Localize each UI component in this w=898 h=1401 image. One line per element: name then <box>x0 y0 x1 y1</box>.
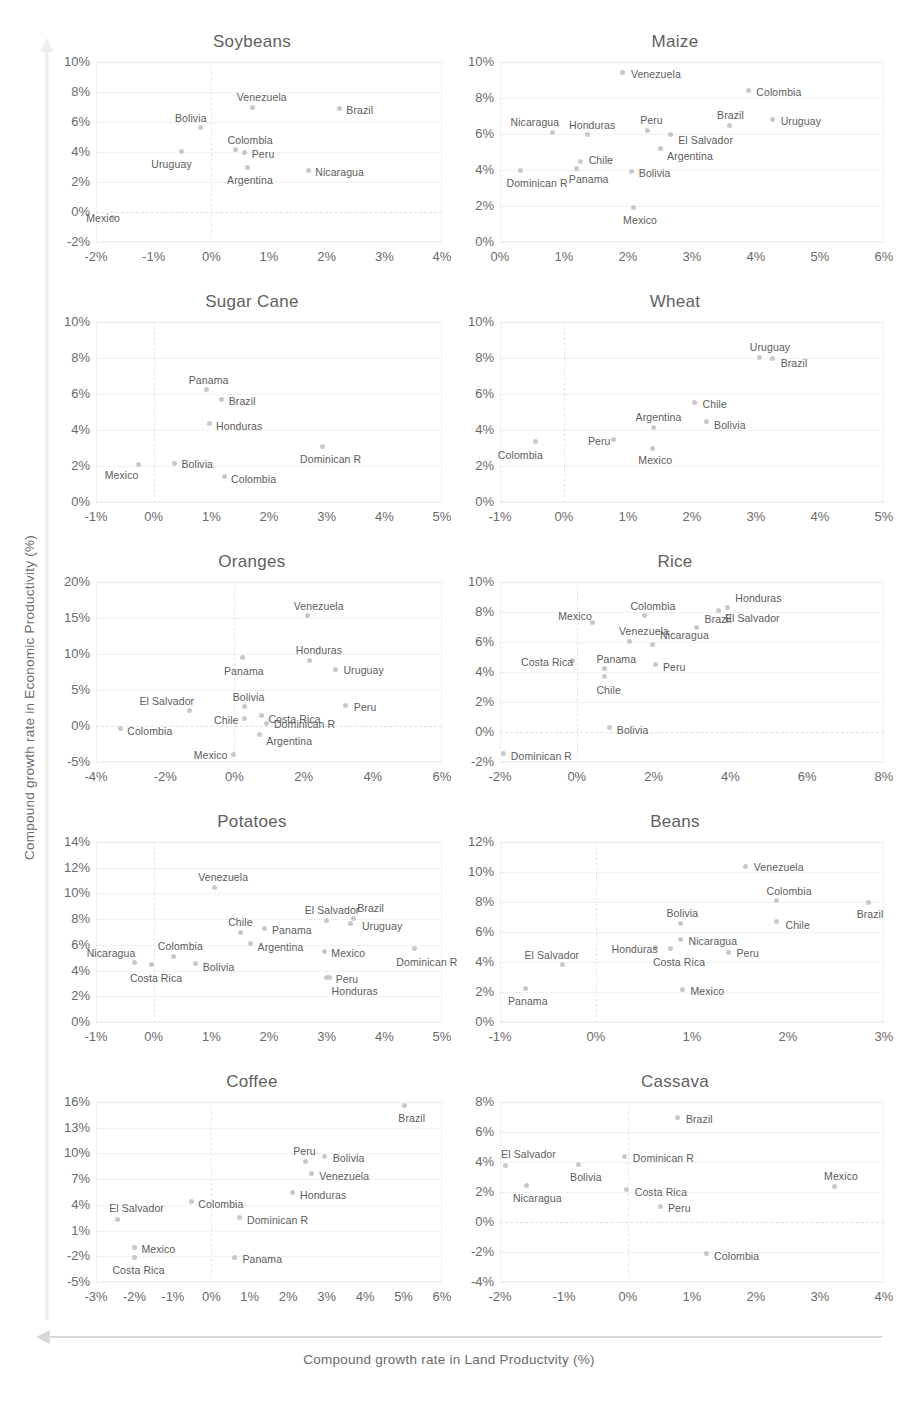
data-point[interactable] <box>627 639 632 644</box>
data-point[interactable] <box>832 1184 837 1189</box>
data-point[interactable] <box>651 425 656 430</box>
data-point[interactable] <box>172 461 177 466</box>
data-point[interactable] <box>725 605 730 610</box>
data-point[interactable] <box>245 165 250 170</box>
data-point[interactable] <box>704 1251 709 1256</box>
data-point[interactable] <box>231 752 236 757</box>
plot-area: 16%13%10%7%4%1%-2%-5%-3%-2%-1%0%1%2%3%4%… <box>96 1102 442 1282</box>
gridline-horizontal <box>96 690 442 691</box>
data-point[interactable] <box>631 205 636 210</box>
x-tick-label: 3% <box>303 510 351 523</box>
data-point[interactable] <box>257 732 262 737</box>
x-tick-label: 4% <box>732 250 780 263</box>
data-point[interactable] <box>242 716 247 721</box>
data-point[interactable] <box>658 146 663 151</box>
data-point[interactable] <box>132 960 137 965</box>
y-tick-label: 8% <box>71 351 90 364</box>
data-point[interactable] <box>402 1103 407 1108</box>
data-point[interactable] <box>743 864 748 869</box>
data-point[interactable] <box>337 106 342 111</box>
data-point[interactable] <box>238 930 243 935</box>
data-point[interactable] <box>602 674 607 679</box>
data-point-label: Venezuela <box>198 872 248 883</box>
data-point-label: Dominican R <box>506 178 567 189</box>
data-point[interactable] <box>650 642 655 647</box>
data-point[interactable] <box>250 105 255 110</box>
data-point[interactable] <box>774 898 779 903</box>
data-point-label: Costa Rica <box>635 1187 687 1198</box>
gridline-horizontal <box>500 242 884 243</box>
data-point[interactable] <box>550 130 555 135</box>
data-point-label: Brazil <box>357 903 384 914</box>
data-point[interactable] <box>207 421 212 426</box>
data-point[interactable] <box>309 1171 314 1176</box>
data-point[interactable] <box>650 446 655 451</box>
data-point[interactable] <box>240 655 245 660</box>
data-point[interactable] <box>692 400 697 405</box>
data-point[interactable] <box>503 1163 508 1168</box>
data-point[interactable] <box>678 921 683 926</box>
data-point[interactable] <box>333 667 338 672</box>
data-point[interactable] <box>774 919 779 924</box>
data-point-label: Uruguay <box>343 665 383 676</box>
data-point-label: Peru <box>336 974 359 985</box>
gridline-horizontal <box>500 502 884 503</box>
data-point[interactable] <box>602 666 607 671</box>
gridline-horizontal <box>500 872 884 873</box>
data-point-label: Honduras <box>612 944 658 955</box>
data-point[interactable] <box>658 1204 663 1209</box>
data-point[interactable] <box>136 462 141 467</box>
data-point[interactable] <box>678 937 683 942</box>
data-point-label: Chile <box>596 685 620 696</box>
data-point[interactable] <box>727 123 732 128</box>
data-point-label: Mexico <box>623 215 657 226</box>
data-point[interactable] <box>303 1159 308 1164</box>
data-point[interactable] <box>668 132 673 137</box>
data-point[interactable] <box>726 950 731 955</box>
data-point[interactable] <box>132 1255 137 1260</box>
data-point[interactable] <box>222 474 227 479</box>
data-point[interactable] <box>290 1190 295 1195</box>
data-point[interactable] <box>866 900 871 905</box>
y-tick-label: 6% <box>475 925 494 938</box>
scatter-panel-potatoes: Potatoes14%12%10%8%6%4%2%0%-1%0%1%2%3%4%… <box>56 812 448 1060</box>
data-point[interactable] <box>187 708 192 713</box>
data-point[interactable] <box>232 1255 237 1260</box>
data-point-label: Colombia <box>228 135 273 146</box>
data-point-label: Nicaragua <box>660 630 709 641</box>
data-point[interactable] <box>348 921 353 926</box>
data-point-label: Chile <box>228 917 252 928</box>
data-point[interactable] <box>320 444 325 449</box>
gridline-horizontal <box>96 242 442 243</box>
data-point[interactable] <box>242 150 247 155</box>
x-tick-label: 2% <box>245 510 293 523</box>
x-tick-label: 3% <box>668 250 716 263</box>
data-point-label: El Salvador <box>524 950 579 961</box>
y-tick-label: 4% <box>475 665 494 678</box>
data-point[interactable] <box>179 149 184 154</box>
data-point[interactable] <box>585 132 590 137</box>
data-point[interactable] <box>306 168 311 173</box>
data-point[interactable] <box>576 1162 581 1167</box>
data-point[interactable] <box>680 987 685 992</box>
y-tick-label: 10% <box>64 55 90 68</box>
data-point[interactable] <box>645 128 650 133</box>
data-point[interactable] <box>757 355 762 360</box>
data-point-label: Argentina <box>266 736 312 747</box>
x-tick-label: -2% <box>141 770 189 783</box>
data-point-label: Colombia <box>127 726 172 737</box>
data-point[interactable] <box>237 1215 242 1220</box>
x-tick-label: 1% <box>187 510 235 523</box>
data-point[interactable] <box>115 1217 120 1222</box>
y-tick-label: 2% <box>475 459 494 472</box>
x-tick-label: 3% <box>303 1030 351 1043</box>
data-point[interactable] <box>322 949 327 954</box>
data-point-label: Panama <box>508 996 548 1007</box>
data-point[interactable] <box>212 885 217 890</box>
gridline-horizontal <box>500 62 884 63</box>
data-point-label: Dominican R <box>247 1215 308 1226</box>
data-point[interactable] <box>560 962 565 967</box>
gridline-horizontal <box>96 1128 442 1129</box>
y-tick-label: 10% <box>64 1146 90 1159</box>
y-tick-label: 10% <box>64 647 90 660</box>
